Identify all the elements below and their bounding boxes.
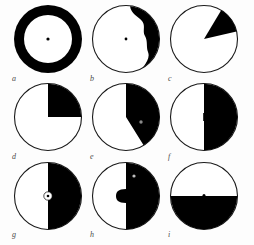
center-dot: [203, 194, 206, 197]
panel-g-graphic: [8, 158, 92, 236]
panel-i-graphic: [164, 158, 248, 236]
center-dot: [46, 37, 49, 40]
panel-a: a: [8, 2, 92, 84]
panel-g: g: [8, 158, 92, 240]
panel-b: b: [86, 2, 170, 84]
figure-container: a b c d e: [0, 0, 254, 245]
right-half-shape: [126, 163, 159, 229]
panel-e-graphic: [86, 80, 170, 154]
panel-b-graphic: [86, 2, 170, 76]
midline-tick: [203, 113, 205, 121]
inner-speck: [132, 174, 135, 177]
panel-e: e: [86, 80, 170, 162]
panel-i: i: [164, 158, 248, 240]
panel-c-graphic: [164, 2, 248, 76]
panel-a-graphic: [8, 2, 92, 76]
inner-speck: [139, 120, 142, 123]
panel-d-graphic: [8, 80, 92, 154]
right-half-shape: [204, 84, 237, 150]
panel-i-label: i: [168, 231, 170, 239]
panel-h-label: h: [90, 231, 94, 239]
center-dot: [125, 38, 128, 41]
bottom-half-shape: [171, 196, 237, 229]
panel-c: c: [164, 2, 248, 84]
right-half-shape: [48, 163, 81, 229]
panel-f: f: [164, 80, 248, 162]
quarter-sector-shape: [48, 84, 81, 117]
panel-g-label: g: [12, 231, 16, 239]
center-dot: [47, 195, 50, 198]
panel-h-graphic: [86, 158, 170, 236]
panel-f-graphic: [164, 80, 248, 154]
panel-d: d: [8, 80, 92, 162]
panel-h: h: [86, 158, 170, 240]
